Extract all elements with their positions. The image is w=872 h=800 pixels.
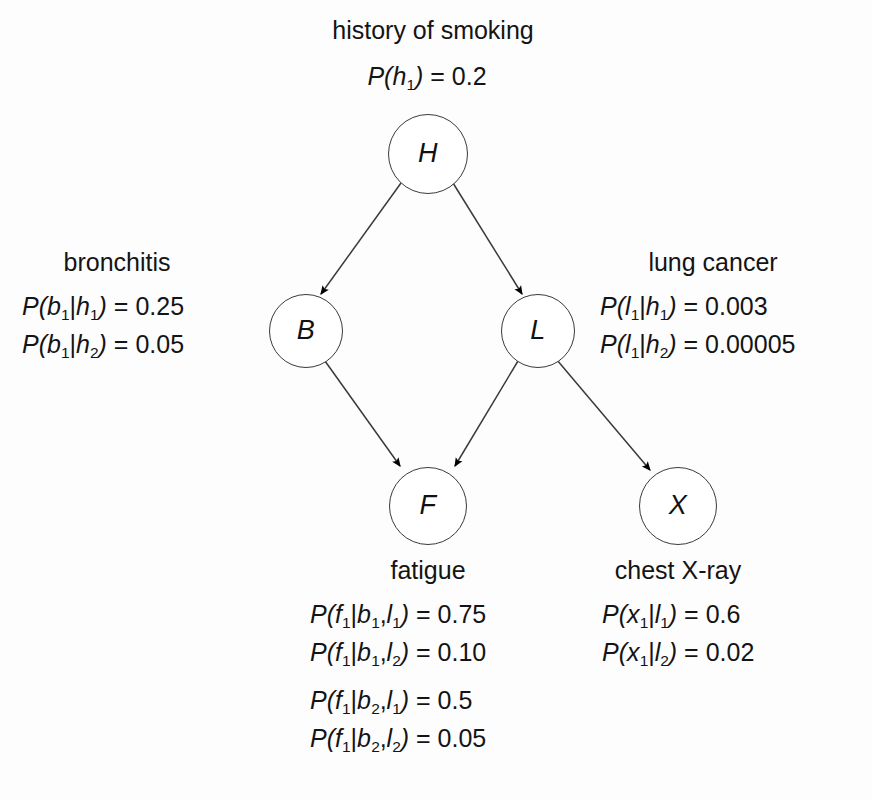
cond-sub: 2 — [90, 344, 99, 361]
prob-f1-b1-l1: P(f1|b1,l1) = 0.75 — [310, 600, 486, 629]
caption-fatigue: fatigue — [390, 556, 465, 585]
cond2-sub: 2 — [392, 652, 401, 669]
cond1-sub: 2 — [371, 700, 380, 717]
lparen: ( — [327, 600, 335, 628]
edge-h-to-l — [453, 183, 522, 294]
cond1-var: b — [357, 600, 371, 628]
lparen: ( — [39, 292, 47, 320]
value: 0.02 — [706, 638, 755, 666]
cond-var: h — [646, 330, 660, 358]
eq: = — [684, 330, 699, 358]
value: 0.05 — [438, 724, 487, 752]
p-sym: P — [310, 686, 327, 714]
rparen: ) — [99, 292, 107, 320]
value: 0.25 — [135, 292, 184, 320]
lparen: ( — [619, 600, 627, 628]
cond1-var: b — [357, 686, 371, 714]
lparen: ( — [327, 638, 335, 666]
value: 0.6 — [706, 600, 741, 628]
prob-value: 0.2 — [452, 62, 487, 90]
value: 0.00005 — [705, 330, 795, 358]
comma: , — [380, 724, 387, 752]
rparen: ) — [99, 330, 107, 358]
node-b-label: B — [297, 315, 316, 346]
cond-sub: 2 — [660, 652, 669, 669]
caption-history-of-smoking: history of smoking — [332, 16, 533, 45]
prob-f1-b2-l1: P(f1|b2,l1) = 0.5 — [310, 686, 472, 715]
prob-f1-b2-l2: P(f1|b2,l2) = 0.05 — [310, 724, 486, 753]
prob-var-sub: 1 — [406, 76, 415, 93]
cond-var: h — [76, 292, 90, 320]
p-sym: P — [310, 724, 327, 752]
cond-var: h — [646, 292, 660, 320]
eq: = — [416, 724, 431, 752]
eq: = — [114, 330, 129, 358]
eq: = — [114, 292, 129, 320]
node-l[interactable]: L — [501, 294, 575, 368]
cond1-var: b — [357, 638, 371, 666]
p-sym: P — [22, 292, 39, 320]
lhs-var: l — [625, 330, 631, 358]
edge-l-to-f — [455, 361, 518, 466]
lhs-sub: 1 — [640, 652, 649, 669]
caption-bronchitis: bronchitis — [64, 248, 171, 277]
lhs-sub: 1 — [342, 614, 351, 631]
p-sym: P — [600, 330, 617, 358]
value: 0.05 — [135, 330, 184, 358]
p-sym: P — [310, 600, 327, 628]
p-sym: P — [602, 600, 619, 628]
eq: = — [684, 600, 699, 628]
prob-f1-b1-l2: P(f1|b1,l2) = 0.10 — [310, 638, 486, 667]
cond1-sub: 2 — [371, 738, 380, 755]
lhs-var: b — [47, 292, 61, 320]
node-f[interactable]: F — [389, 467, 467, 545]
cond2-sub: 1 — [392, 700, 401, 717]
lhs-var: x — [627, 600, 640, 628]
cond-sub: 1 — [90, 306, 99, 323]
prob-rparen: ) — [415, 62, 423, 90]
rparen: ) — [401, 724, 409, 752]
prob-equals: = — [430, 62, 445, 90]
lhs-sub: 1 — [631, 306, 640, 323]
prob-b1-given-h2: P(b1|h2) = 0.05 — [22, 330, 184, 359]
prob-h1: P(h1) = 0.2 — [367, 62, 486, 91]
lhs-var: x — [627, 638, 640, 666]
eq: = — [416, 600, 431, 628]
cond-sub: 1 — [660, 306, 669, 323]
cond2-sub: 2 — [392, 738, 401, 755]
prob-x1-given-l2: P(x1|l2) = 0.02 — [602, 638, 754, 667]
value: 0.75 — [438, 600, 487, 628]
node-h[interactable]: H — [388, 114, 468, 194]
lparen: ( — [327, 724, 335, 752]
lhs-var: f — [335, 638, 342, 666]
lhs-sub: 1 — [631, 344, 640, 361]
lparen: ( — [617, 330, 625, 358]
rparen: ) — [669, 638, 677, 666]
node-b[interactable]: B — [269, 294, 343, 368]
cond-var: h — [76, 330, 90, 358]
lhs-var: b — [47, 330, 61, 358]
rparen: ) — [669, 600, 677, 628]
prob-l1-given-h2: P(l1|h2) = 0.00005 — [600, 330, 795, 359]
rparen: ) — [668, 330, 676, 358]
lhs-var: f — [335, 724, 342, 752]
eq: = — [416, 638, 431, 666]
lhs-var: l — [625, 292, 631, 320]
caption-chest-xray: chest X-ray — [615, 556, 741, 585]
value: 0.10 — [438, 638, 487, 666]
lhs-sub: 1 — [342, 652, 351, 669]
rparen: ) — [401, 686, 409, 714]
p-sym: P — [600, 292, 617, 320]
node-x[interactable]: X — [639, 467, 717, 545]
comma: , — [380, 638, 387, 666]
lparen: ( — [39, 330, 47, 358]
lparen: ( — [617, 292, 625, 320]
comma: , — [380, 686, 387, 714]
prob-p: P — [367, 62, 384, 90]
prob-l1-given-h1: P(l1|h1) = 0.003 — [600, 292, 768, 321]
cond-sub: 2 — [660, 344, 669, 361]
lhs-sub: 1 — [640, 614, 649, 631]
edge-l-to-x — [557, 360, 650, 470]
node-x-label: X — [669, 490, 688, 521]
eq: = — [416, 686, 431, 714]
